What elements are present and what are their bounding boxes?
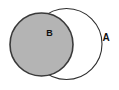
- venn-diagram: B A: [0, 0, 119, 90]
- set-b-circle: [10, 13, 73, 76]
- set-a-label: A: [102, 32, 109, 43]
- venn-svg: B A: [0, 0, 119, 90]
- set-b-label: B: [46, 28, 53, 38]
